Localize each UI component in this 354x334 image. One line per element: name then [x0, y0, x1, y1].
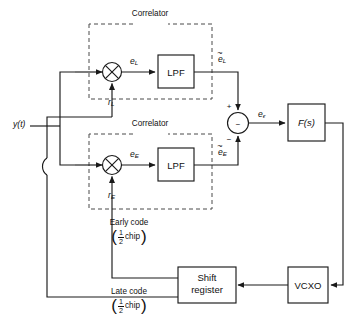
lpf-lower-block: LPF	[158, 148, 194, 181]
signal-label-eE: eE	[130, 150, 139, 160]
shift-register-block: Shift register	[178, 267, 236, 303]
late-paren-open: (	[111, 300, 117, 313]
signal-label-rE: rE	[108, 191, 115, 201]
loop-filter-block: F(s)	[288, 104, 325, 141]
svg-text:Shift: Shift	[197, 272, 216, 283]
early-code-amount: ( 1 2 chip )	[95, 229, 163, 245]
wire-upper-lpf-to-sum	[194, 72, 238, 110]
late-fraction: 1 2	[118, 298, 124, 314]
correlator-lower-label: Correlator	[119, 120, 181, 128]
signal-rE-sub: E	[111, 193, 115, 200]
early-paren-close: )	[141, 231, 147, 244]
svg-text:LPF: LPF	[167, 160, 185, 171]
block-diagram-figure: LPF LPF	[0, 0, 354, 334]
early-paren-open: (	[111, 231, 117, 244]
input-distribution-bus	[60, 72, 75, 165]
late-chip-unit: chip	[125, 302, 140, 310]
signal-eE-tilde-sub: E	[223, 150, 227, 157]
diagram-canvas: LPF LPF	[0, 0, 354, 334]
wire-crossover-hop	[43, 158, 48, 175]
late-paren-close: )	[141, 300, 147, 313]
svg-text:VCXO: VCXO	[295, 280, 322, 291]
wire-lower-lpf-to-sum	[194, 136, 238, 165]
signal-rL-sub: L	[111, 100, 114, 107]
signal-eE-sub: E	[135, 152, 139, 159]
wire-early-code-tap	[112, 244, 178, 278]
wire-loop-filter-to-vcxo	[325, 123, 343, 285]
signal-label-eL: eL	[130, 57, 138, 67]
svg-text:F(s): F(s)	[298, 117, 315, 128]
svg-text:−: −	[227, 135, 232, 144]
svg-text:register: register	[191, 284, 223, 295]
late-fraction-denominator: 2	[118, 307, 124, 315]
signal-label-eE-tilde: ~eE	[218, 148, 227, 158]
svg-text:+: +	[227, 102, 232, 111]
tilde-glyph-lower: ~	[217, 142, 222, 151]
late-code-label: Late code	[95, 288, 163, 296]
input-signal-label: y(t)	[13, 120, 25, 129]
svg-text:−: −	[236, 120, 241, 129]
multiplier-upper	[103, 63, 122, 82]
multiplier-lower	[103, 156, 122, 175]
correlator-upper-label: Correlator	[119, 10, 181, 18]
svg-text:LPF: LPF	[167, 67, 185, 78]
early-fraction-denominator: 2	[118, 238, 124, 246]
signal-label-rL: rL	[108, 98, 114, 108]
late-code-amount: ( 1 2 chip )	[95, 298, 163, 314]
early-code-label: Early code	[95, 219, 163, 227]
lpf-upper-block: LPF	[158, 55, 194, 88]
vcxo-block: VCXO	[288, 267, 328, 303]
signal-eL-sub: L	[135, 59, 138, 66]
signal-label-eL-tilde: ~eL	[218, 55, 226, 65]
signal-label-e-epsilon: eϵ	[258, 110, 266, 120]
tilde-glyph-upper: ~	[217, 49, 222, 58]
signal-e-epsilon-sub: ϵ	[263, 112, 266, 119]
early-chip-unit: chip	[125, 233, 140, 241]
signal-eL-tilde-sub: L	[223, 57, 226, 64]
early-fraction: 1 2	[118, 229, 124, 245]
